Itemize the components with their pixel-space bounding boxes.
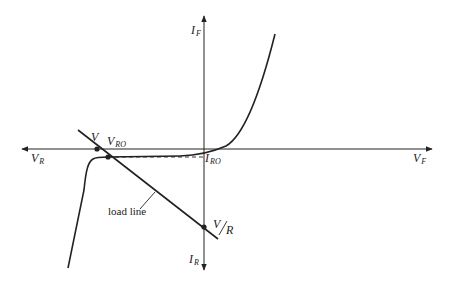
label-reverse-current: IR <box>189 253 199 267</box>
load-line-label: load line <box>108 206 146 217</box>
label-operating-current: IRO <box>205 152 221 166</box>
operating-point <box>105 154 110 159</box>
label-forward-current: IF <box>191 24 201 38</box>
diode-iv-diagram: IF IR VF VR V VRO IRO V R load line <box>0 0 454 285</box>
label-operating-voltage: VRO <box>107 135 126 149</box>
label-forward-voltage: VF <box>413 152 426 166</box>
label-source-voltage: V <box>91 131 98 143</box>
diode-curve <box>68 34 275 268</box>
label-reverse-voltage: VR <box>31 152 44 166</box>
intercept-point <box>201 224 206 229</box>
intercept-denominator: R <box>226 224 233 236</box>
diagram-canvas <box>0 0 454 285</box>
load-line <box>78 130 218 239</box>
source-voltage-point <box>94 146 99 151</box>
label-intercept: V R <box>213 218 235 236</box>
